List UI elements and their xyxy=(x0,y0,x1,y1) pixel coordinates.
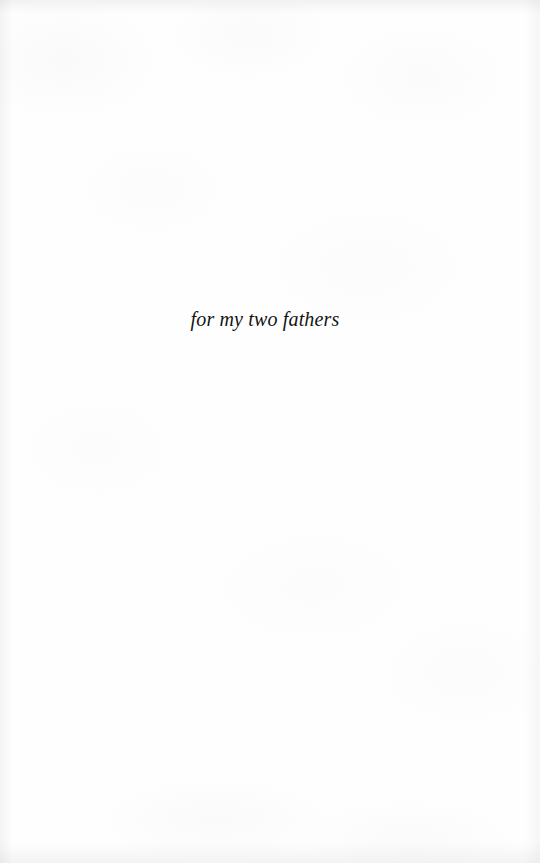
page-edge-left-shading xyxy=(0,0,12,863)
book-page: for my two fathers xyxy=(0,0,540,863)
dedication-text: for my two fathers xyxy=(191,306,340,332)
dedication-block: for my two fathers xyxy=(0,306,530,332)
page-edge-top-shading xyxy=(0,0,540,14)
paper-texture xyxy=(0,0,540,863)
page-edge-right-shading xyxy=(514,0,540,863)
page-edge-bottom-shading xyxy=(0,841,540,863)
